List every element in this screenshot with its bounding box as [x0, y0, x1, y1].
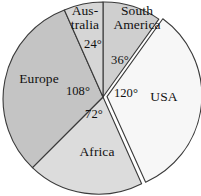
slice-label-south-america-line2: America [106, 18, 168, 32]
slice-label-africa: Africa [70, 145, 124, 159]
slice-angle-australia: 24° [78, 38, 108, 51]
slice-label-south-america-line1: South [106, 4, 168, 18]
slice-label-australia: Aus- tralia [65, 4, 105, 31]
slice-label-south-america: South America [106, 4, 168, 31]
slice-label-europe: Europe [10, 72, 68, 86]
slice-angle-africa: 72° [78, 108, 110, 121]
slice-angle-usa: 120° [107, 87, 145, 100]
slice-angle-europe: 108° [59, 85, 97, 98]
slice-angle-south-america: 36° [105, 54, 135, 67]
slice-label-australia-line2: tralia [65, 18, 105, 32]
slice-label-usa: USA [144, 90, 184, 104]
pie-chart: Aus- tralia South America Europe USA Afr… [0, 0, 201, 196]
slice-label-australia-line1: Aus- [65, 4, 105, 18]
